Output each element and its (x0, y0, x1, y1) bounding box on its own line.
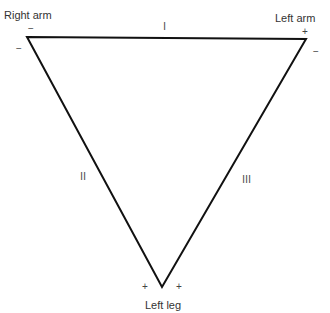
lead-2-label: II (80, 170, 86, 182)
right-arm-sign-top: − (28, 23, 34, 34)
left-arm-sign-top: + (302, 26, 308, 37)
right-arm-sign-side: − (16, 43, 22, 54)
triangle-outline (27, 37, 306, 287)
right-arm-label: Right arm (4, 9, 52, 21)
einthoven-triangle (0, 0, 330, 313)
left-leg-sign-right: + (176, 281, 182, 292)
lead-1-label: I (163, 20, 166, 32)
left-arm-sign-side: − (313, 46, 319, 57)
left-leg-label: Left leg (145, 299, 181, 311)
left-leg-sign-left: + (142, 281, 148, 292)
left-arm-label: Left arm (275, 12, 315, 24)
lead-3-label: III (242, 173, 251, 185)
